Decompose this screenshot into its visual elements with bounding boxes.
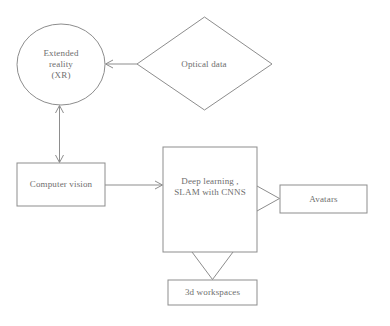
connector-deep-learning-to-avatars <box>257 186 280 211</box>
node-shape-computer-vision[interactable] <box>17 163 105 206</box>
node-shape-3d-workspaces[interactable] <box>168 280 257 305</box>
node-shape-avatars[interactable] <box>280 185 367 213</box>
connector-computer-vision-to-deep-learning <box>105 181 163 189</box>
connector-extended-reality-to-computer-vision <box>56 106 64 163</box>
connector-deep-learning-to-3d-workspaces <box>192 252 233 280</box>
node-shape-deep-learning[interactable] <box>163 147 257 252</box>
node-shape-extended-reality[interactable] <box>17 24 105 105</box>
connector-optical-data-to-extended-reality <box>106 60 138 68</box>
node-shape-optical-data[interactable] <box>137 17 272 110</box>
diagram-svg <box>0 0 390 326</box>
diagram-canvas: Extended reality (XR) Optical data Compu… <box>0 0 390 326</box>
